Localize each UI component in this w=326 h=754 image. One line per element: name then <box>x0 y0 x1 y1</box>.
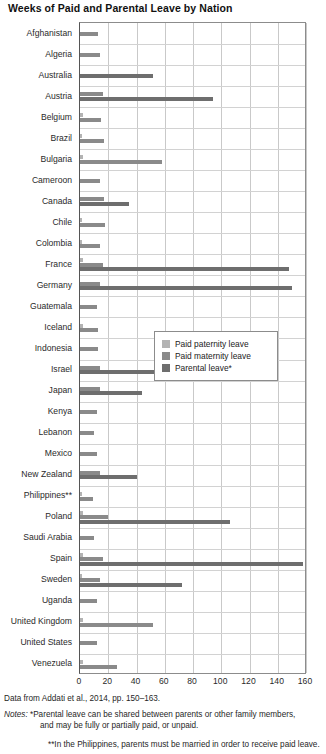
note2: **In the Philippines, parents must be ma… <box>4 740 326 751</box>
bar-paid-maternity-leave <box>80 139 104 143</box>
bar-parental-leave <box>80 370 155 374</box>
y-tick-label: Lebanon <box>39 427 72 437</box>
bar-paid-paternity-leave <box>80 324 83 328</box>
y-tick-label: Colombia <box>36 238 72 248</box>
bar-paid-paternity-leave <box>80 218 82 222</box>
bar-row <box>80 486 305 507</box>
bar-paid-paternity-leave <box>80 113 83 117</box>
bar-paid-maternity-leave <box>80 160 162 164</box>
bar-paid-maternity-leave <box>80 197 104 201</box>
bar-row <box>80 170 305 191</box>
bar-row <box>80 107 305 128</box>
bar-paid-paternity-leave <box>80 553 83 557</box>
bar-paid-paternity-leave <box>80 240 82 244</box>
y-tick-label: Germany <box>37 280 72 290</box>
note1-line2: and may be fully or partially paid, or u… <box>4 721 324 732</box>
x-tick-label: 140 <box>270 676 284 686</box>
bar-row <box>80 591 305 612</box>
legend-label: Paid paternity leave <box>175 339 249 349</box>
y-tick-label: Afghanistan <box>27 28 72 38</box>
bar-paid-paternity-leave <box>80 155 83 159</box>
y-tick-label: New Zealand <box>21 469 72 479</box>
bar-paid-maternity-leave <box>80 471 100 475</box>
bar-parental-leave <box>80 97 213 101</box>
bar-paid-maternity-leave <box>80 387 100 391</box>
y-tick-label: Mexico <box>45 448 72 458</box>
bar-paid-maternity-leave <box>80 92 103 96</box>
bar-paid-paternity-leave <box>80 660 83 664</box>
y-tick-label: Uganda <box>42 595 72 605</box>
bar-row <box>80 212 305 233</box>
bar-row <box>80 507 305 528</box>
bar-paid-maternity-leave <box>80 536 94 540</box>
legend-swatch-icon <box>162 340 170 348</box>
bar-paid-maternity-leave <box>80 282 100 286</box>
y-tick-label: Bulgaria <box>40 154 72 164</box>
bar-paid-maternity-leave <box>80 244 100 248</box>
legend-swatch-icon <box>162 352 170 360</box>
bar-parental-leave <box>80 267 289 271</box>
bar-paid-maternity-leave <box>80 578 100 582</box>
y-tick-label: France <box>45 259 72 269</box>
bar-row <box>80 296 305 317</box>
bar-paid-maternity-leave <box>80 223 105 227</box>
bar-paid-maternity-leave <box>80 328 98 332</box>
bar-row <box>80 65 305 86</box>
y-tick-label: Algeria <box>45 49 72 59</box>
x-tick-label: 160 <box>298 676 312 686</box>
bar-parental-leave <box>80 286 292 290</box>
legend-item: Paid maternity leave <box>162 351 271 361</box>
y-tick-label: Saudi Arabia <box>23 532 72 542</box>
source-note: Data from Addati et al., 2014, pp. 150–1… <box>4 694 324 705</box>
bar-paid-maternity-leave <box>80 599 97 603</box>
bar-row <box>80 612 305 633</box>
x-tick-label: 20 <box>102 676 112 686</box>
bar-paid-maternity-leave <box>80 53 100 57</box>
bar-row <box>80 654 305 675</box>
bar-parental-leave <box>80 74 153 78</box>
bar-row <box>80 549 305 570</box>
chart-legend: Paid paternity leavePaid maternity leave… <box>154 331 278 381</box>
y-tick-label: Spain <box>50 553 72 563</box>
y-tick-label: Poland <box>45 511 72 521</box>
bar-paid-paternity-leave <box>80 511 83 515</box>
bar-paid-paternity-leave <box>80 492 82 496</box>
bar-paid-maternity-leave <box>80 641 97 645</box>
legend-swatch-icon <box>162 364 170 372</box>
bar-row <box>80 149 305 170</box>
x-axis-ticks: 020406080100120140160 <box>79 676 306 690</box>
legend-label: Paid maternity leave <box>175 351 251 361</box>
bar-row <box>80 423 305 444</box>
bar-parental-leave <box>80 583 182 587</box>
notes-label: Notes: <box>4 710 28 719</box>
legend-item: Parental leave* <box>162 363 271 373</box>
gridline-x-160 <box>306 23 307 673</box>
bar-parental-leave <box>80 475 137 479</box>
y-tick-label: Canada <box>42 196 72 206</box>
x-tick-label: 100 <box>213 676 227 686</box>
bar-paid-maternity-leave <box>80 431 94 435</box>
x-tick-label: 40 <box>131 676 141 686</box>
y-tick-label: Austria <box>45 91 72 101</box>
bar-row <box>80 402 305 423</box>
bar-row <box>80 528 305 549</box>
y-tick-label: Chile <box>52 217 72 227</box>
bar-row <box>80 191 305 212</box>
x-tick-label: 0 <box>77 676 82 686</box>
bar-paid-maternity-leave <box>80 452 97 456</box>
bar-row <box>80 86 305 107</box>
bar-paid-maternity-leave <box>80 305 97 309</box>
legend-label: Parental leave* <box>175 363 232 373</box>
y-tick-label: Japan <box>49 385 72 395</box>
bar-row <box>80 465 305 486</box>
x-tick-label: 80 <box>187 676 197 686</box>
y-tick-label: Venezuela <box>32 658 72 668</box>
bar-paid-maternity-leave <box>80 515 108 519</box>
y-tick-label: Cameroon <box>32 175 72 185</box>
bar-row <box>80 570 305 591</box>
bar-paid-maternity-leave <box>80 557 103 561</box>
bar-paid-maternity-leave <box>80 410 97 414</box>
bar-row <box>80 381 305 402</box>
bar-paid-maternity-leave <box>80 497 93 501</box>
notes-block: Notes: *Parental leave can be shared bet… <box>4 710 324 731</box>
